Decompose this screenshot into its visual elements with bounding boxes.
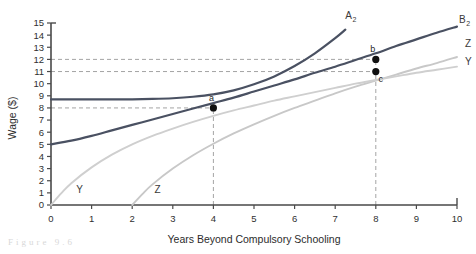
x-tick-label-2: 2 [130, 213, 135, 224]
curve-label-B2: B2 [459, 14, 470, 27]
y-tick-label-11: 11 [34, 66, 44, 77]
y-tick-label-14: 14 [33, 30, 44, 41]
curve-label-Y: Y [465, 56, 472, 67]
y-tick-label-1: 1 [39, 187, 44, 198]
point-b [372, 56, 379, 63]
curve-group [51, 27, 457, 205]
point-a [210, 104, 217, 111]
chart-figure: 0123456789101112131415012345678910 A2B2Z… [0, 0, 476, 254]
curve-label-A2: A2 [345, 10, 356, 23]
y-tick-label-15: 15 [33, 17, 44, 28]
x-tick-label-0: 0 [48, 213, 53, 224]
x-tick-label-7: 7 [333, 213, 338, 224]
y-tick-label-4: 4 [39, 151, 44, 162]
x-axis-title: Years Beyond Compulsory Schooling [168, 233, 341, 245]
x-tick-label-10: 10 [452, 213, 463, 224]
curve-label-subscript: 2 [353, 16, 357, 23]
y-tick-label-9: 9 [39, 90, 44, 101]
curve-label-Y-1: Y [76, 184, 83, 195]
point-c-label: c [379, 74, 384, 84]
tick-label-group: 0123456789101112131415012345678910 [33, 17, 462, 224]
x-tick-label-8: 8 [373, 213, 378, 224]
x-tick-label-3: 3 [170, 213, 175, 224]
x-tick-label-5: 5 [251, 213, 256, 224]
y-tick-label-7: 7 [39, 114, 44, 125]
y-axis-title: Wage ($) [6, 97, 18, 140]
point-b-label: b [370, 44, 375, 54]
y-tick-label-13: 13 [33, 42, 44, 53]
y-tick-label-3: 3 [39, 163, 44, 174]
y-tick-label-6: 6 [39, 127, 44, 138]
x-tick-label-9: 9 [414, 213, 419, 224]
axis-group [47, 23, 457, 209]
curve-label-subscript: 2 [466, 20, 470, 27]
y-tick-label-2: 2 [39, 175, 44, 186]
y-tick-label-8: 8 [39, 102, 44, 113]
y-tick-label-5: 5 [39, 139, 44, 150]
curve-A2 [51, 30, 345, 100]
x-tick-label-4: 4 [211, 213, 216, 224]
x-tick-label-6: 6 [292, 213, 297, 224]
y-tick-label-12: 12 [33, 54, 44, 65]
point-a-label: a [209, 93, 214, 103]
curve-Y [51, 67, 457, 205]
x-tick-label-1: 1 [89, 213, 94, 224]
curve-label-Z-1: Z [155, 184, 161, 195]
wage-schooling-line-chart: 0123456789101112131415012345678910 A2B2Z… [0, 0, 476, 254]
y-tick-label-10: 10 [33, 78, 44, 89]
reference-line-group [51, 59, 376, 205]
figure-caption: Figure 9.6 [8, 237, 75, 247]
curve-label-Z: Z [465, 38, 471, 49]
curve-B2 [51, 27, 457, 145]
y-tick-label-0: 0 [39, 199, 44, 210]
curve-label-group: A2B2ZZYY [76, 10, 472, 195]
axis-lines [51, 23, 457, 205]
